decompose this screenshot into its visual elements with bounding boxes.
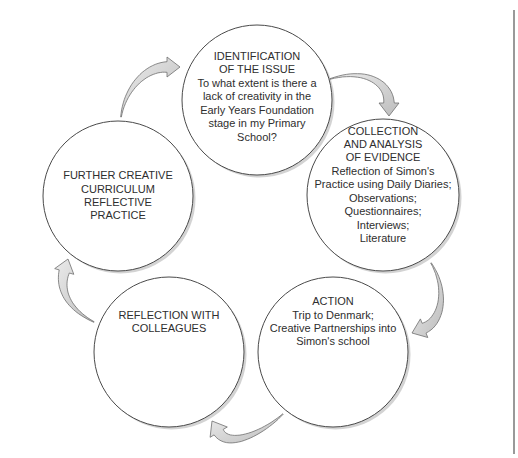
- node-text-line: REFLECTIVE: [84, 196, 152, 209]
- node-text-line: FURTHER CREATIVE: [63, 169, 173, 182]
- cycle-arrow-further-to-identification: [121, 57, 180, 117]
- node-text-line: COLLECTION: [348, 125, 418, 138]
- node-text-line: Reflection of Simon's: [332, 165, 435, 178]
- node-text-line: Simon's school: [296, 335, 370, 348]
- node-text-line: PRACTICE: [90, 209, 146, 222]
- node-text-line: Literature: [360, 232, 406, 245]
- node-text-line: Practice using Daily Diaries;: [315, 178, 452, 191]
- node-text-line: Observations;: [349, 192, 417, 205]
- node-text-line: Creative Partnerships into: [270, 322, 397, 335]
- node-text-line: AND ANALYSIS: [344, 138, 423, 151]
- node-text-line: School?: [237, 131, 277, 144]
- node-label-further: FURTHER CREATIVECURRICULUMREFLECTIVEPRAC…: [46, 121, 190, 271]
- node-text-line: CURRICULUM: [81, 183, 155, 196]
- node-text-line: To what extent is there a: [197, 77, 316, 90]
- node-text-line: COLLEAGUES: [132, 322, 207, 335]
- cycle-arrow-collection-to-action: [412, 263, 444, 338]
- node-text-line: IDENTIFICATION: [214, 50, 301, 63]
- node-label-identification: IDENTIFICATIONOF THE ISSUETo what extent…: [185, 22, 329, 172]
- node-text-line: Early Years Foundation: [200, 104, 314, 117]
- node-text-line: OF EVIDENCE: [346, 151, 421, 164]
- node-text-line: lack of creativity in the: [203, 90, 311, 103]
- node-text-line: stage in my Primary: [208, 117, 305, 130]
- node-text-line: ACTION: [312, 295, 354, 308]
- node-text-line: Trip to Denmark;: [292, 309, 374, 322]
- node-text-line: Questionnaires;: [344, 205, 421, 218]
- node-label-collection: COLLECTIONAND ANALYSISOF EVIDENCEReflect…: [310, 109, 456, 261]
- node-text-line: OF THE ISSUE: [219, 63, 295, 76]
- node-label-action: ACTIONTrip to Denmark;Creative Partnersh…: [261, 247, 405, 397]
- node-text-line: REFLECTION WITH: [119, 309, 220, 322]
- node-text-line: Interviews;: [357, 219, 410, 232]
- cycle-arrow-action-to-reflection: [210, 414, 283, 443]
